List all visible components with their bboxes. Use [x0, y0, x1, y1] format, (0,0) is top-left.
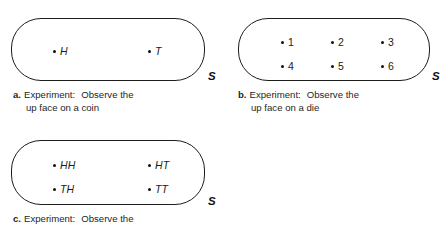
outcome-label: 4 [288, 61, 294, 72]
caption-b: b.Experiment:Observe the up face on a di… [238, 89, 359, 114]
outcome-c-2: HT [148, 160, 169, 171]
sample-space-figure: H T S a.Experiment:Observe the up face o… [0, 0, 441, 228]
outcome-label: 5 [338, 61, 344, 72]
caption-c: c.Experiment:Observe the [13, 213, 133, 226]
sample-space-box-a [11, 18, 205, 81]
outcome-dot-icon [148, 188, 151, 191]
outcome-dot-icon [331, 65, 334, 68]
outcome-dot-icon [148, 164, 151, 167]
caption-tag: a. [13, 89, 21, 100]
caption-line-2: up face on a coin [13, 102, 133, 115]
outcome-label: 6 [388, 61, 394, 72]
sample-space-letter-c: S [208, 196, 216, 208]
outcome-c-4: TT [148, 184, 168, 195]
outcome-b-3: 3 [381, 37, 394, 48]
outcome-label: HH [60, 160, 76, 171]
outcome-b-6: 6 [381, 61, 394, 72]
caption-tag: b. [238, 89, 247, 100]
outcome-b-2: 2 [331, 37, 344, 48]
sample-space-box-c [11, 140, 205, 205]
outcome-dot-icon [53, 164, 56, 167]
sample-space-box-b [238, 18, 430, 81]
caption-a: a.Experiment:Observe the up face on a co… [13, 89, 133, 114]
caption-text-observe: Observe the [307, 89, 359, 100]
outcome-dot-icon [281, 65, 284, 68]
outcome-dot-icon [381, 41, 384, 44]
outcome-label: 1 [288, 37, 294, 48]
outcome-a-2: T [148, 46, 162, 57]
outcome-c-3: TH [53, 184, 74, 195]
caption-text-experiment: Experiment: [250, 89, 301, 100]
caption-line-2: up face on a die [238, 102, 359, 115]
outcome-label: 2 [338, 37, 344, 48]
outcome-dot-icon [381, 65, 384, 68]
outcome-label: H [60, 46, 68, 57]
outcome-c-1: HH [53, 160, 75, 171]
outcome-label: HT [155, 160, 169, 171]
outcome-dot-icon [148, 50, 151, 53]
outcome-dot-icon [281, 41, 284, 44]
outcome-label: 3 [388, 37, 394, 48]
caption-text-experiment: Experiment: [24, 89, 75, 100]
outcome-b-1: 1 [281, 37, 294, 48]
outcome-label: TT [155, 184, 168, 195]
outcome-b-4: 4 [281, 61, 294, 72]
outcome-dot-icon [331, 41, 334, 44]
outcome-dot-icon [53, 50, 56, 53]
outcome-a-1: H [53, 46, 68, 57]
caption-tag: c. [13, 213, 21, 224]
caption-text-observe: Observe the [81, 89, 133, 100]
outcome-label: TH [60, 184, 74, 195]
sample-space-letter-b: S [432, 71, 440, 83]
sample-space-letter-a: S [208, 71, 216, 83]
caption-text-experiment: Experiment: [24, 213, 75, 224]
outcome-dot-icon [53, 188, 56, 191]
outcome-label: T [155, 46, 162, 57]
outcome-b-5: 5 [331, 61, 344, 72]
caption-text-observe: Observe the [81, 213, 133, 224]
